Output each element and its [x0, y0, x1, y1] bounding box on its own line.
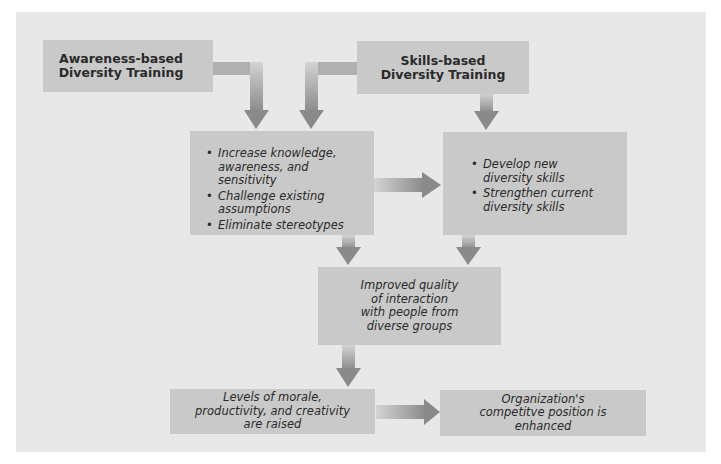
competitive-text: Organization's competitve position is en… — [476, 393, 610, 434]
awareness-title-line2: Diversity Training — [59, 66, 184, 80]
list-item: Eliminate stereotypes — [206, 219, 366, 233]
arrow-skills-to-knowledge — [299, 62, 358, 129]
skills-outcomes-box: Develop new diversity skills Strengthen … — [443, 132, 627, 235]
interaction-text: Improved quality of interaction with peo… — [358, 279, 461, 333]
awareness-outcomes-list: Increase knowledge, awareness, and sensi… — [206, 147, 366, 232]
arrow-awareness-to-knowledge — [213, 62, 269, 129]
awareness-outcomes-box: Increase knowledge, awareness, and sensi… — [190, 131, 374, 235]
skills-title-line2: Diversity Training — [381, 68, 506, 82]
list-item: Strengthen current diversity skills — [471, 187, 593, 214]
skills-outcomes-list: Develop new diversity skills Strengthen … — [471, 158, 613, 214]
competitive-position-box: Organization's competitve position is en… — [440, 390, 646, 436]
morale-text: Levels of morale, productivity, and crea… — [194, 391, 351, 432]
arrow-skills-outcomes-to-interaction — [456, 235, 481, 265]
arrow-interaction-to-morale — [336, 345, 361, 387]
list-item: Develop new diversity skills — [471, 158, 575, 185]
skills-training-box: Skills-based Diversity Training — [357, 41, 529, 94]
list-item: Challenge existing assumptions — [206, 190, 366, 217]
arrow-knowledge-to-interaction — [336, 235, 361, 265]
list-item: Increase knowledge, awareness, and sensi… — [206, 147, 366, 188]
awareness-title-line1: Awareness-based — [59, 52, 183, 66]
arrow-skills-to-skill-outcomes — [474, 93, 499, 130]
arrow-morale-to-competitive — [376, 399, 440, 425]
arrow-knowledge-to-skills — [374, 172, 441, 198]
awareness-training-box: Awareness-based Diversity Training — [43, 40, 213, 92]
interaction-box: Improved quality of interaction with peo… — [318, 267, 501, 345]
morale-box: Levels of morale, productivity, and crea… — [170, 389, 375, 434]
skills-title-line1: Skills-based — [400, 54, 485, 68]
